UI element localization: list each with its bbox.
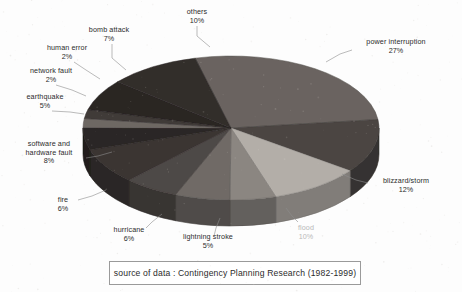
slice-label-lightning-stroke-name: lightning stroke: [183, 232, 233, 241]
slice-label-human-error-name: human error: [47, 43, 87, 52]
slice-label-network-fault-pct: 2%: [18, 76, 84, 85]
slice-label-flood: flood 10%: [285, 224, 327, 241]
slice-label-software-hardware-fault: software and hardware fault 8%: [13, 140, 85, 166]
slice-label-hurricane: hurricane 6%: [103, 226, 155, 243]
slice-label-blizzard-storm-name: blizzard/storm: [383, 176, 429, 185]
slice-label-power-interruption-name: power interruption: [366, 37, 425, 46]
slice-label-fire: fire 6%: [48, 196, 78, 213]
slice-label-earthquake: earthquake 5%: [14, 93, 76, 110]
slice-label-network-fault: network fault 2%: [18, 67, 84, 84]
slice-label-blizzard-storm: blizzard/storm 12%: [370, 177, 442, 194]
slice-label-bomb-attack: bomb attack 7%: [78, 26, 140, 43]
slice-label-fire-name: fire: [58, 195, 68, 204]
pie-chart-figure: others 10% bomb attack 7% human error 2%…: [0, 0, 462, 292]
slice-label-human-error: human error 2%: [36, 44, 98, 61]
slice-label-blizzard-storm-pct: 12%: [370, 186, 442, 195]
slice-label-others: others 10%: [170, 8, 224, 25]
pie-slices-group: [83, 56, 379, 226]
slice-label-software-hardware-fault-pct: 8%: [13, 157, 85, 166]
slice-label-lightning-stroke: lightning stroke 5%: [173, 233, 243, 250]
leader-line: [112, 44, 126, 70]
slice-label-others-name: others: [187, 7, 208, 16]
leader-line: [78, 190, 106, 200]
slice-label-flood-pct: 10%: [285, 233, 327, 242]
pie-slice-side: [230, 197, 276, 226]
slice-label-flood-name: flood: [298, 223, 314, 232]
slice-label-fire-pct: 6%: [48, 205, 78, 214]
slice-label-earthquake-pct: 5%: [14, 102, 76, 111]
slice-label-bomb-attack-name: bomb attack: [89, 25, 129, 34]
slice-label-bomb-attack-pct: 7%: [78, 35, 140, 44]
slice-label-power-interruption: power interruption 27%: [355, 38, 437, 55]
slice-label-others-pct: 10%: [170, 17, 224, 26]
slice-label-power-interruption-pct: 27%: [355, 47, 437, 56]
leader-line: [326, 50, 352, 62]
source-caption-text: source of data : Contingency Planning Re…: [114, 268, 356, 278]
slice-label-network-fault-name: network fault: [30, 66, 72, 75]
slice-label-hurricane-name: hurricane: [114, 225, 145, 234]
leader-line: [52, 111, 84, 114]
slice-label-hurricane-pct: 6%: [103, 235, 155, 244]
leader-line: [197, 26, 210, 47]
slice-label-software-hardware-fault-name-line1: software and: [28, 139, 70, 148]
source-caption-box: source of data : Contingency Planning Re…: [109, 261, 361, 285]
slice-label-human-error-pct: 2%: [36, 53, 98, 62]
slice-label-earthquake-name: earthquake: [27, 92, 64, 101]
slice-label-lightning-stroke-pct: 5%: [173, 242, 243, 251]
